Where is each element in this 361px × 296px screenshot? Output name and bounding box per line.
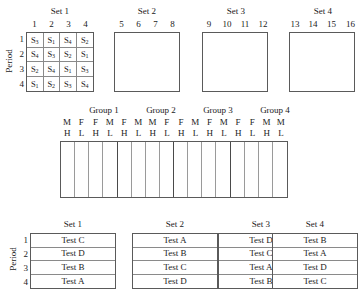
latin-square-cell: S3 [27, 33, 44, 48]
latin-square-grid-set-3 [202, 32, 268, 92]
test-schedule-cell: Test D [31, 248, 115, 262]
level-header-cell: H [89, 128, 103, 138]
level-header-cell: L [160, 128, 174, 138]
subject-column [245, 142, 259, 197]
sex-header-row: MFFMFMMFFMFMFFMM [60, 117, 288, 127]
latin-square-grid-set-1: S3S1S4S2S4S3S2S1S2S4S1S3S1S2S3S4 [26, 32, 94, 92]
set-title-2: Set 2 [113, 6, 181, 16]
group-title-2: Group 2 [131, 105, 191, 115]
sex-header-cell: M [217, 117, 231, 127]
set-title-1: Set 1 [26, 6, 94, 16]
test-schedule-cell: Test D [133, 275, 217, 289]
bottom-set-title-2: Set 2 [132, 219, 218, 229]
sex-header-cell: M [60, 117, 74, 127]
sex-header-cell: M [188, 117, 202, 127]
column-header: 6 [130, 19, 147, 29]
level-header-cell: H [260, 128, 274, 138]
subject-column [231, 142, 245, 197]
column-header: 15 [322, 19, 341, 29]
column-header: 2 [43, 19, 60, 29]
level-header-cell: H [146, 128, 160, 138]
top-row-number: 4 [14, 77, 24, 92]
subject-column [202, 142, 216, 197]
level-header-cell: L [74, 128, 88, 138]
test-schedule-cell: Test C [133, 261, 217, 275]
test-schedule-set-1: Test CTest DTest BTest A [30, 233, 116, 289]
sex-header-cell: M [260, 117, 274, 127]
subject-assignment-grid [60, 141, 288, 198]
sex-header-cell: F [231, 117, 245, 127]
top-row-numbers: 1 2 3 4 [14, 32, 24, 92]
sex-header-cell: F [174, 117, 188, 127]
latin-square-cell: S1 [60, 62, 77, 77]
level-header-row: HLHLHLHLHLHLHLHL [60, 128, 288, 138]
test-schedule-cell: Test B [31, 261, 115, 275]
column-header: 9 [200, 19, 218, 29]
top-period-label: Period [4, 41, 14, 81]
latin-square-cell: S2 [77, 33, 94, 48]
subject-column [89, 142, 103, 197]
top-row-number: 1 [14, 32, 24, 47]
sex-header-cell: F [203, 117, 217, 127]
latin-square-cell: S3 [60, 77, 77, 92]
subject-column [61, 142, 75, 197]
test-schedule-cell: Test A [273, 248, 357, 262]
sex-header-cell: F [245, 117, 259, 127]
latin-square-cell: S4 [27, 48, 44, 63]
latin-square-cell: S2 [44, 77, 61, 92]
latin-square-cell: S2 [27, 62, 44, 77]
subject-column [273, 142, 287, 197]
sex-header-cell: M [146, 117, 160, 127]
test-schedule-set-2: Test ATest BTest CTest D [132, 233, 218, 289]
latin-square-cell: S1 [27, 77, 44, 92]
column-header: 4 [77, 19, 94, 29]
level-header-cell: H [203, 128, 217, 138]
latin-square-grid-set-2 [114, 32, 180, 92]
subject-column [259, 142, 273, 197]
latin-square-grid-set-4 [289, 32, 355, 92]
column-header: 7 [147, 19, 164, 29]
subject-column [160, 142, 174, 197]
bottom-set-title-1: Set 1 [30, 219, 116, 229]
latin-square-cell: S4 [60, 33, 77, 48]
latin-square-cell: S3 [77, 62, 94, 77]
bottom-row-number: 1 [18, 233, 28, 247]
sex-header-cell: F [160, 117, 174, 127]
level-header-cell: H [174, 128, 188, 138]
column-header: 11 [236, 19, 254, 29]
bottom-row-number: 3 [18, 261, 28, 275]
column-header: 3 [60, 19, 77, 29]
subject-column [174, 142, 188, 197]
column-header: 16 [341, 19, 360, 29]
top-row-number: 3 [14, 62, 24, 77]
subject-column [132, 142, 146, 197]
set-column-headers-4: 13 14 15 16 [286, 19, 360, 29]
level-header-cell: L [274, 128, 288, 138]
set-column-headers-1: 1 2 3 4 [26, 19, 94, 29]
subject-column [216, 142, 230, 197]
subject-column [75, 142, 89, 197]
subject-column [103, 142, 117, 197]
bottom-period-label: Period [8, 239, 18, 279]
column-header: 12 [254, 19, 272, 29]
latin-square-cell: S4 [44, 62, 61, 77]
set-column-headers-2: 5 6 7 8 [113, 19, 181, 29]
latin-square-cell: S3 [44, 48, 61, 63]
level-header-cell: H [60, 128, 74, 138]
test-schedule-cell: Test A [31, 275, 115, 289]
column-header: 14 [304, 19, 322, 29]
latin-square-cell: S1 [44, 33, 61, 48]
column-header: 1 [26, 19, 43, 29]
sex-header-cell: M [131, 117, 145, 127]
test-schedule-cell: Test D [273, 261, 357, 275]
bottom-row-numbers: 1 2 3 4 [18, 233, 28, 289]
column-header: 10 [218, 19, 236, 29]
set-column-headers-3: 9 10 11 12 [200, 19, 272, 29]
test-schedule-cell: Test A [133, 234, 217, 248]
bottom-set-title-4: Set 4 [272, 219, 358, 229]
set-title-4: Set 4 [287, 6, 359, 16]
group-title-1: Group 1 [74, 105, 134, 115]
sex-header-cell: F [74, 117, 88, 127]
test-schedule-set-4: Test BTest ATest DTest C [272, 233, 358, 289]
subject-column [146, 142, 160, 197]
